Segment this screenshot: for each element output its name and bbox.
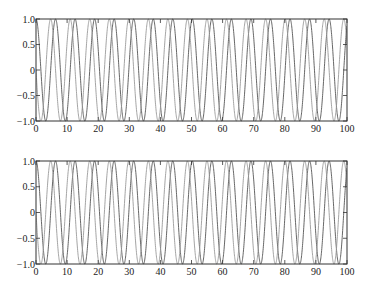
- subplot-top: 0102030405060708090100−1.0−0.500.51.0: [17, 14, 355, 135]
- y-tick-label: 1.0: [23, 14, 36, 25]
- x-tick-label: 70: [249, 123, 259, 134]
- subplot-bottom: 0102030405060708090100−1.0−0.500.51.0: [17, 156, 355, 278]
- x-tick-label: 40: [155, 123, 165, 134]
- x-tick-label: 60: [218, 266, 228, 277]
- x-tick-label: 20: [93, 266, 103, 277]
- plot-lines: [36, 161, 347, 264]
- x-tick-label: 30: [124, 123, 134, 134]
- x-tick-label: 90: [311, 123, 321, 134]
- figure: 0102030405060708090100−1.0−0.500.51.0 01…: [0, 0, 372, 294]
- x-tick-label: 10: [62, 266, 72, 277]
- y-tick-label: −0.5: [17, 233, 35, 244]
- x-tick-label: 20: [93, 123, 103, 134]
- x-tick-label: 100: [340, 123, 355, 134]
- y-tick-label: −1.0: [17, 116, 35, 127]
- x-tick-label: 60: [218, 123, 228, 134]
- x-tick-label: 30: [124, 266, 134, 277]
- x-tick-label: 10: [62, 123, 72, 134]
- plot-lines: [36, 19, 347, 121]
- y-tick-label: 0.5: [23, 181, 36, 192]
- x-tick-label: 80: [280, 123, 290, 134]
- y-tick-label: −1.0: [17, 259, 35, 270]
- x-tick-label: 50: [187, 123, 197, 134]
- y-tick-label: 1.0: [23, 156, 36, 167]
- x-tick-label: 70: [249, 266, 259, 277]
- series-line-neg-sin: [36, 161, 347, 264]
- x-tick-label: 40: [155, 266, 165, 277]
- x-tick-label: 100: [340, 266, 355, 277]
- y-tick-label: 0: [30, 65, 35, 76]
- x-tick-label: 50: [187, 266, 197, 277]
- y-tick-label: 0: [30, 207, 35, 218]
- y-tick-label: −0.5: [17, 90, 35, 101]
- x-tick-label: 80: [280, 266, 290, 277]
- series-line-neg-sin: [36, 19, 347, 121]
- x-tick-label: 90: [311, 266, 321, 277]
- y-tick-label: 0.5: [23, 39, 36, 50]
